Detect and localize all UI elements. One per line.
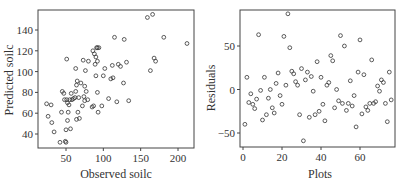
data-point [113,35,117,39]
data-point [267,96,271,100]
data-point [115,100,119,104]
data-point [84,90,88,94]
data-point [382,81,386,85]
data-point [75,83,79,87]
data-point [79,81,83,85]
data-point [317,109,321,113]
x-tick-label: 100 [95,152,112,164]
y-tick-label: 120 [17,45,34,57]
data-point [58,140,62,144]
left-y-axis-ticks: 406080100120140 [17,24,39,140]
y-tick-label: 50 [224,40,236,52]
data-point [284,83,288,87]
data-point [84,69,88,73]
data-point [384,102,388,106]
data-point [337,99,341,103]
y-tick-label: 100 [17,66,34,78]
data-point [319,75,323,79]
data-point [103,67,107,71]
data-point [185,42,189,46]
right-y-axis-label: Residuals [204,64,218,111]
data-point [323,119,327,123]
data-point [100,104,104,108]
right-scatter-chart: 0204060 −50050 Plots Residuals [204,10,395,181]
data-point [122,38,126,42]
x-tick-label: 60 [355,151,367,163]
data-point [52,130,56,134]
right-x-axis-label: Plots [308,167,332,181]
data-point [65,57,69,61]
data-point [331,59,335,63]
data-point [245,75,249,79]
data-point [315,60,319,64]
data-point [257,33,261,37]
data-point [348,79,352,83]
data-point [352,94,356,98]
data-point [87,59,91,63]
y-tick-label: 80 [22,86,34,98]
x-tick-label: 0 [240,151,246,163]
data-point [378,89,382,93]
data-point [362,73,366,77]
data-point [270,106,274,110]
data-point [350,104,354,108]
y-tick-label: 140 [17,24,34,36]
data-point [387,70,391,74]
data-point [94,55,98,59]
data-point [74,67,78,71]
data-point [329,54,333,58]
data-point [45,102,49,106]
data-point [81,58,85,62]
data-point [343,44,347,48]
data-point [96,91,100,95]
data-point [298,113,302,117]
data-point [94,74,98,78]
data-point [64,128,68,132]
data-point [265,113,269,117]
data-point [122,81,126,85]
data-point [354,125,358,129]
data-point [346,102,350,106]
data-point [268,88,272,92]
data-point [325,83,329,87]
data-point [280,102,284,106]
data-point [339,34,343,38]
x-tick-label: 20 [277,151,289,163]
data-point [286,12,290,16]
data-point [46,114,50,118]
data-point [261,118,265,122]
data-point [282,35,286,39]
data-point [127,99,131,103]
data-point [151,13,155,17]
data-point [368,102,372,106]
data-point [311,89,315,93]
data-point [74,90,78,94]
data-point [300,67,304,71]
data-point [276,71,280,75]
data-point [274,82,278,86]
data-point [313,113,317,117]
y-tick-label: −50 [218,127,236,139]
data-point [66,119,70,123]
right-data-points [243,12,393,143]
left-scatter-chart: 50100150200 406080100120140 Observed soi… [2,10,194,181]
y-tick-label: 40 [22,128,34,140]
data-point [385,120,389,124]
data-point [75,79,79,83]
data-point [356,70,360,74]
data-point [307,115,311,119]
data-point [278,94,282,98]
data-point [146,16,150,20]
data-point [154,59,158,63]
data-point [304,78,308,82]
data-point [345,109,349,113]
data-point [370,58,374,62]
data-point [50,121,54,125]
data-point [162,35,166,39]
data-point [96,110,100,114]
x-tick-label: 50 [61,152,73,164]
left-plot-frame [38,10,194,148]
data-point [380,78,384,82]
data-point [110,64,114,68]
y-tick-label: 60 [22,107,34,119]
